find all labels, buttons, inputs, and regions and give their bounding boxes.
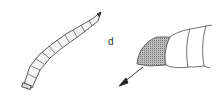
figure-canvas (0, 0, 222, 97)
larva-detail-drawing (137, 25, 212, 68)
larva-body-drawing (22, 12, 101, 90)
panel-label: d (108, 37, 114, 47)
arrow-icon (119, 67, 143, 86)
